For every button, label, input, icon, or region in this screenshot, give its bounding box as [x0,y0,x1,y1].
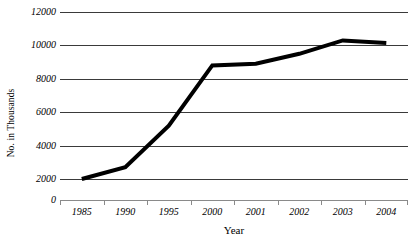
data-series-line [60,12,408,200]
x-axis-tick-label: 2003 [333,206,353,217]
y-axis-tick-label: 12000 [18,7,56,17]
y-axis-tick-label: 6000 [18,107,56,117]
line-chart: No. in Thousands 12000100008000600040002… [0,0,419,246]
x-axis-tick-label: 2004 [376,206,396,217]
x-axis-tick [321,200,322,205]
x-axis-tick-label: 1995 [159,206,179,217]
x-axis-tick [234,200,235,205]
x-axis-tick [278,200,279,205]
plot-area [60,12,408,200]
x-axis-tick [104,200,105,205]
x-axis-tick-label: 2001 [246,206,266,217]
y-axis-tick-label: 10000 [18,40,56,50]
x-axis-title: Year [60,224,408,236]
x-axis-line [60,200,408,201]
x-axis-tick-label: 1990 [115,206,135,217]
x-axis-tick [147,200,148,205]
x-axis-tick [191,200,192,205]
y-axis-tick-label: 0 [18,195,56,205]
y-axis-tick-label: 4000 [18,141,56,151]
y-axis-tick-label: 2000 [18,174,56,184]
y-axis-tick-labels: 120001000080006000400020000 [18,0,56,246]
x-axis-tick-label: 1985 [72,206,92,217]
y-axis-tick-label: 8000 [18,74,56,84]
x-axis-tick-labels: 19851990199520002001200220032004 [60,206,408,222]
x-axis-tick [365,200,366,205]
x-axis-tick [60,200,61,205]
x-axis-tick-label: 2000 [202,206,222,217]
x-axis-tick-label: 2002 [289,206,309,217]
x-axis-tick [407,200,408,205]
